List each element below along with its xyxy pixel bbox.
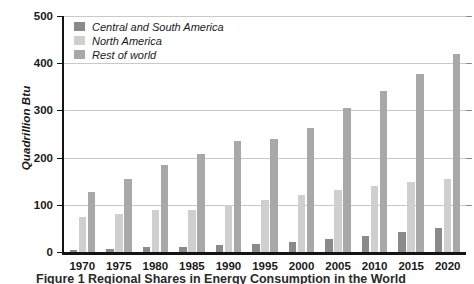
x-tick-label: 1990 [216,260,242,272]
y-tick-label: 0 [47,246,53,258]
bar [270,139,278,252]
bar [252,244,260,252]
bar-group [325,16,351,252]
bar [289,242,297,252]
x-tick-label: 1980 [143,260,169,272]
y-tick-mark-right [466,63,472,64]
bar-group [252,16,278,252]
bar [444,179,452,252]
bar [197,154,205,252]
y-tick-label: 400 [34,57,53,69]
bar [143,247,151,252]
figure-caption: Figure 1 Regional Shares in Energy Consu… [36,272,406,284]
legend-swatch [74,36,85,45]
x-tick-label: 2000 [289,260,315,272]
bar [234,141,242,252]
bar [407,182,415,252]
bar [307,128,315,252]
x-axis-line [62,252,466,255]
y-tick-mark-right [466,158,472,159]
y-tick-mark-right [466,16,472,17]
bar [124,179,132,252]
x-tick-label: 2020 [435,260,461,272]
y-tick-label: 500 [34,10,53,22]
y-tick-mark [57,205,62,206]
legend-swatch [74,22,85,31]
x-tick-label: 1995 [252,260,278,272]
x-tick-label: 1985 [179,260,205,272]
bar [216,245,224,252]
bar [70,250,78,252]
bar-group [398,16,424,252]
bar [188,210,196,252]
y-tick-label: 200 [34,152,53,164]
bar-group [362,16,388,252]
y-tick-label: 300 [34,104,53,116]
bar [179,247,187,252]
x-tick-label: 1970 [69,260,95,272]
bar [152,210,160,252]
y-tick-mark-right [466,110,472,111]
bar [115,214,123,252]
legend-label: North America [92,35,162,47]
legend-item: North America [74,34,224,47]
y-tick-mark [57,16,62,17]
y-tick-label: 100 [34,199,53,211]
bar [435,228,443,252]
y-tick-mark [57,252,62,253]
bar [398,232,406,252]
bar [334,190,342,252]
bar [79,217,87,252]
bar-chart-figure: Quadrillion Btu 0100200300400500 1970197… [0,0,474,284]
y-tick-mark [57,158,62,159]
bar [225,205,233,252]
bar [106,249,114,252]
bar [416,74,424,252]
legend-label: Central and South America [92,21,224,33]
x-tick-label: 2010 [362,260,388,272]
bar [261,200,269,252]
bar [88,192,96,252]
bar-group [289,16,315,252]
x-tick-label: 2015 [398,260,424,272]
legend-item: Rest of world [74,48,224,61]
bar [161,165,169,252]
chart-legend: Central and South AmericaNorth AmericaRe… [74,20,224,62]
legend-item: Central and South America [74,20,224,33]
bar-group [435,16,461,252]
bar [362,236,370,252]
y-axis-title: Quadrillion Btu [20,58,32,198]
x-tick-label: 2005 [325,260,351,272]
bar [380,91,388,252]
legend-label: Rest of world [92,49,156,61]
y-tick-mark-right [466,205,472,206]
bar [298,195,306,252]
bar [343,108,351,252]
y-tick-mark [57,63,62,64]
x-tick-label: 1975 [106,260,132,272]
bar [453,54,461,252]
bar [371,186,379,252]
legend-swatch [74,50,85,59]
y-tick-mark [57,110,62,111]
bar [325,239,333,252]
